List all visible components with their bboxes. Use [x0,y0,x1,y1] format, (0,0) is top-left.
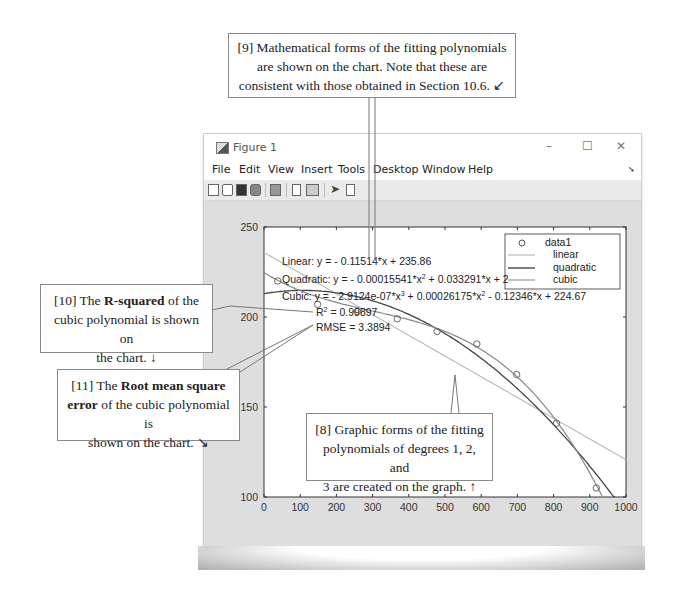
x-tick-label: 800 [545,501,563,513]
legend: data1 linear quadratic cubic [505,234,620,289]
linear-equation: Linear: y = - 0.11514*x + 235.86 [282,255,431,267]
legend-data1: data1 [545,236,571,248]
x-tick-label: 200 [328,501,346,513]
x-tick-label: 0 [261,501,267,513]
legend-quadratic: quadratic [553,261,596,273]
rmse-term: Root mean square [121,378,226,393]
y-tick-label: 100 [240,491,258,503]
callout-11-rmse: [11] The Root mean square error of the c… [57,369,240,441]
r-squared-term: R-squared [104,293,165,308]
arrow-down-right-icon: ↘ [197,435,209,450]
arrow-up-icon: ↑ [469,479,476,494]
cubic-equation: Cubic: y = - 2.9124e-07*x3 + 0.00026175*… [282,290,586,302]
legend-linear: linear [553,248,579,260]
y-tick-label: 200 [240,311,258,323]
y-tick-label: 150 [240,401,258,413]
x-tick-label: 500 [436,501,454,513]
x-tick-label: 1000 [614,501,638,513]
callout-8-graphic-forms: [8] Graphic forms of the fitting polynom… [306,413,493,481]
x-tick-label: 900 [581,501,599,513]
quadratic-equation: Quadratic: y = - 0.00015541*x2 + 0.03329… [282,273,509,285]
x-tick-label: 400 [400,501,418,513]
arrow-down-icon: ↓ [150,350,157,365]
legend-cubic: cubic [553,273,578,285]
rmse-value: RMSE = 3.3894 [316,321,391,333]
x-tick-label: 300 [364,501,382,513]
x-tick-label: 100 [291,501,309,513]
x-tick-label: 600 [472,501,490,513]
callout-10-r-squared: [10] The R-squared of the cubic polynomi… [40,284,213,353]
x-tick-label: 700 [509,501,527,513]
y-tick-label: 250 [240,221,258,233]
